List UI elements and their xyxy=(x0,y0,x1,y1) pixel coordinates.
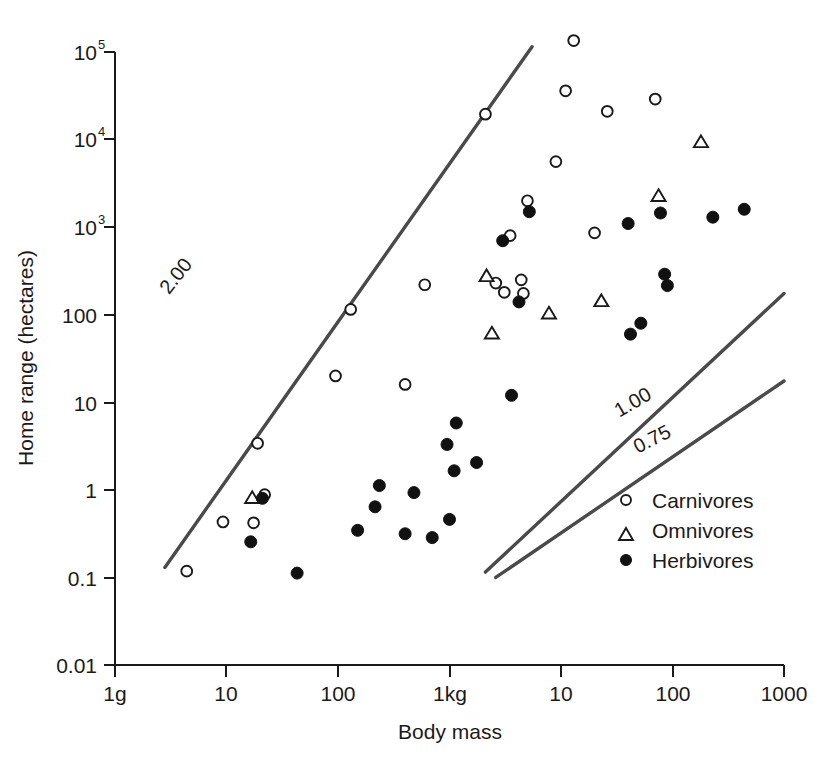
data-point-herbivore xyxy=(624,328,636,340)
data-point-herbivore xyxy=(291,567,303,579)
y-tick-label-1: 1 xyxy=(85,479,97,502)
x-tick-label-100g: 100 xyxy=(320,682,355,705)
slope-label-0.75: 0.75 xyxy=(629,420,674,457)
data-point-herbivore xyxy=(408,487,420,499)
data-point-herbivore xyxy=(444,513,456,525)
y-tick-label-1e4-exp: 4 xyxy=(98,124,105,139)
y-tick-label-1e5-base: 10 xyxy=(74,41,97,64)
data-point-herbivore xyxy=(448,465,460,477)
x-tick-label-1kg: 1kg xyxy=(433,682,467,705)
x-tick-label-100kg: 100 xyxy=(655,682,690,705)
data-point-herbivore xyxy=(738,203,750,215)
y-tick-label-1e3-exp: 3 xyxy=(98,212,105,227)
y-tick-label-100: 100 xyxy=(62,304,97,327)
legend-label-herbivores: Herbivores xyxy=(652,549,754,572)
data-point-carnivore xyxy=(181,566,192,577)
plot-canvas: 10 5 10 4 10 3 100 10 1 0.1 0.01 1g 10 xyxy=(0,0,839,765)
data-point-herbivore xyxy=(369,501,381,513)
reference-line-0.75 xyxy=(496,381,784,577)
data-point-herbivore xyxy=(352,524,364,536)
legend: Carnivores Omnivores Herbivores xyxy=(619,489,754,572)
data-point-omnivore xyxy=(485,327,499,339)
legend-marker-carnivores-icon xyxy=(621,495,631,505)
data-point-carnivore xyxy=(400,379,411,390)
data-point-herbivore xyxy=(523,206,535,218)
y-tick-label-1e4-base: 10 xyxy=(74,128,97,151)
y-tick-labels: 10 5 10 4 10 3 100 10 1 0.1 0.01 xyxy=(56,37,105,677)
x-tick-labels: 1g 10 100 1kg 10 100 1000 xyxy=(103,682,807,705)
data-point-carnivore xyxy=(480,109,491,120)
x-tick-label-10g: 10 xyxy=(214,682,237,705)
y-tick-label-1e3-base: 10 xyxy=(74,216,97,239)
data-point-herbivore xyxy=(441,438,453,450)
data-point-carnivore xyxy=(499,287,510,298)
data-point-herbivore xyxy=(661,280,673,292)
data-point-omnivore xyxy=(594,294,608,306)
data-point-carnivore xyxy=(248,517,259,528)
y-tick-label-0.1: 0.1 xyxy=(68,567,97,590)
slope-label-1.00: 1.00 xyxy=(610,383,655,422)
data-point-carnivore xyxy=(419,279,430,290)
y-tick-label-1e5-exp: 5 xyxy=(98,37,105,52)
data-point-herbivore xyxy=(426,532,438,544)
slope-label-2.00: 2.00 xyxy=(155,254,196,298)
data-point-omnivore xyxy=(480,269,494,281)
data-point-carnivore xyxy=(252,438,263,449)
axis-frame xyxy=(115,52,784,665)
data-point-carnivore xyxy=(330,371,341,382)
data-point-carnivore xyxy=(650,94,661,105)
legend-marker-omnivores-icon xyxy=(619,528,633,540)
x-tick-label-10kg: 10 xyxy=(549,682,572,705)
home-range-scatter-figure: 10 5 10 4 10 3 100 10 1 0.1 0.01 1g 10 xyxy=(0,0,839,765)
data-point-omnivore xyxy=(652,189,666,201)
y-tick-marks xyxy=(104,52,115,665)
data-point-carnivore xyxy=(516,274,527,285)
y-tick-label-0.01: 0.01 xyxy=(56,654,97,677)
data-point-herbivore xyxy=(513,296,525,308)
data-point-carnivore xyxy=(551,156,562,167)
data-point-carnivore xyxy=(589,227,600,238)
legend-label-omnivores: Omnivores xyxy=(652,519,754,542)
data-point-herbivore xyxy=(635,317,647,329)
data-point-herbivore xyxy=(245,536,257,548)
data-point-herbivore xyxy=(450,417,462,429)
data-point-omnivore xyxy=(694,135,708,147)
legend-marker-herbivores-icon xyxy=(621,555,632,566)
legend-label-carnivores: Carnivores xyxy=(652,489,754,512)
data-point-herbivore xyxy=(256,492,268,504)
data-point-herbivore xyxy=(659,268,671,280)
data-point-herbivore xyxy=(654,207,666,219)
x-tick-label-1g: 1g xyxy=(103,682,126,705)
data-point-carnivore xyxy=(345,304,356,315)
data-point-omnivore xyxy=(542,307,556,319)
x-tick-marks xyxy=(115,665,784,677)
x-axis-title: Body mass xyxy=(398,720,502,743)
y-tick-label-10: 10 xyxy=(74,392,97,415)
data-point-herbivore xyxy=(707,211,719,223)
data-point-herbivore xyxy=(497,235,509,247)
data-point-carnivore xyxy=(522,195,533,206)
data-point-herbivore xyxy=(373,480,385,492)
data-point-herbivore xyxy=(506,389,518,401)
data-point-carnivore xyxy=(568,35,579,46)
y-axis-title: Home range (hectares) xyxy=(14,250,37,466)
data-point-carnivore xyxy=(218,517,229,528)
data-point-herbivore xyxy=(471,457,483,469)
x-tick-label-1000kg: 1000 xyxy=(761,682,808,705)
data-point-herbivore xyxy=(622,218,634,230)
data-point-herbivore xyxy=(399,528,411,540)
data-point-carnivore xyxy=(560,85,571,96)
data-point-carnivore xyxy=(602,106,613,117)
